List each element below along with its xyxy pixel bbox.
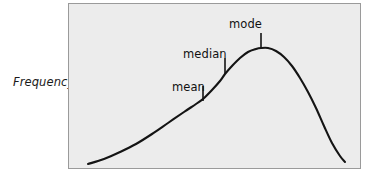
mode-label: mode <box>229 17 262 31</box>
median-label: median <box>183 47 227 61</box>
frequency-distribution-figure: Frequency mode median mean <box>0 0 371 176</box>
mean-label: mean <box>172 80 205 94</box>
